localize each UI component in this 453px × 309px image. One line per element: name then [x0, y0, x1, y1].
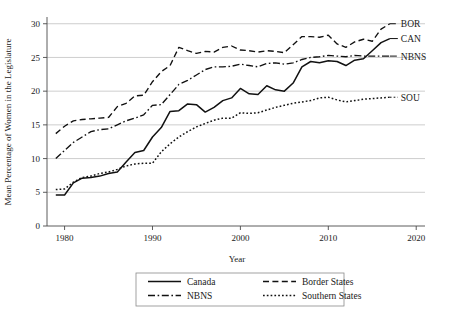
series-end-label-bor: BOR — [401, 19, 421, 29]
series-end-labels: CANBORNBNSSOU — [390, 19, 426, 102]
legend-label-border-states: Border States — [302, 277, 354, 287]
x-tick-label-2020: 2020 — [407, 233, 426, 243]
x-tick-label-1980: 1980 — [56, 233, 75, 243]
y-tick-label-25: 25 — [31, 53, 41, 63]
legend-label-canada: Canada — [187, 277, 216, 287]
series-line-sou — [56, 97, 390, 189]
y-tick-label-30: 30 — [31, 19, 41, 29]
y-axis-title: Mean Percentage of Women in the Legislat… — [3, 38, 13, 205]
series-line-can — [56, 39, 390, 195]
x-tick-label-2010: 2010 — [319, 233, 338, 243]
series-end-label-sou: SOU — [401, 93, 420, 103]
x-axis-tick-labels: 19801990200020102020 — [56, 233, 426, 243]
series-line-bor — [56, 24, 390, 134]
y-tick-label-15: 15 — [31, 120, 41, 130]
tick-marks — [43, 24, 416, 230]
gridlines — [47, 24, 425, 193]
chart-figure: 19801990200020102020 051015202530 Year M… — [0, 0, 453, 309]
y-tick-label-0: 0 — [36, 221, 41, 231]
x-tick-label-1990: 1990 — [143, 233, 162, 243]
y-tick-label-5: 5 — [36, 187, 41, 197]
x-tick-label-2000: 2000 — [231, 233, 250, 243]
legend-label-nbns: NBNS — [187, 291, 212, 301]
y-tick-label-20: 20 — [31, 86, 41, 96]
chart-legend: CanadaBorder StatesNBNSSouthern States — [136, 273, 362, 306]
series-end-label-nbns: NBNS — [401, 52, 426, 62]
legend-label-southern-states: Southern States — [302, 291, 362, 301]
legend-items: CanadaBorder StatesNBNSSouthern States — [148, 277, 362, 301]
line-chart: 19801990200020102020 051015202530 Year M… — [0, 0, 453, 309]
y-axis-tick-labels: 051015202530 — [31, 19, 41, 231]
y-tick-label-10: 10 — [31, 154, 41, 164]
data-series — [56, 24, 390, 195]
x-axis-title: Year — [229, 254, 246, 264]
series-end-label-can: CAN — [401, 34, 421, 44]
series-line-nbns — [56, 55, 390, 158]
